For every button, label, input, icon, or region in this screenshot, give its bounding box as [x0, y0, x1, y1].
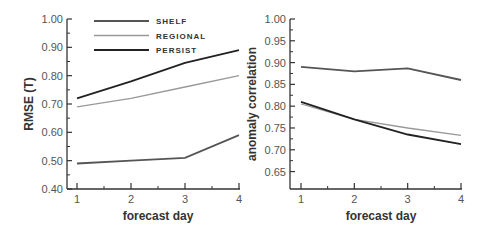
y-tick-label: 0.85 [265, 78, 286, 90]
y-axis-label: anomaly correlation [245, 47, 259, 161]
y-tick-label: 0.90 [265, 57, 286, 69]
y-tick-label: 0.40 [42, 183, 63, 195]
x-tick-label: 3 [405, 193, 411, 205]
y-tick-label: 0.75 [265, 122, 286, 134]
y-tick-label: 0.80 [265, 100, 286, 112]
y-tick-label: 0.80 [42, 70, 63, 82]
y-tick-label: 0.50 [42, 155, 63, 167]
y-tick-label: 0.90 [42, 41, 63, 53]
rmse-chart: 0.400.500.600.700.800.901.001234forecast… [22, 13, 242, 223]
x-tick-label: 3 [182, 193, 188, 205]
y-tick-label: 0.95 [265, 35, 286, 47]
series-line-persist [301, 102, 461, 144]
x-tick-label: 4 [236, 193, 242, 205]
x-axis-label: forecast day [346, 209, 417, 223]
y-tick-label: 0.60 [42, 126, 63, 138]
chart-canvas: 0.400.500.600.700.800.901.001234forecast… [0, 0, 484, 228]
series-line-regional [301, 104, 461, 135]
series-line-shelf [301, 67, 461, 80]
y-tick-label: 0.70 [265, 144, 286, 156]
series-line-persist [77, 50, 239, 98]
y-tick-label: 0.70 [42, 98, 63, 110]
anomaly-correlation-chart: 0.650.700.750.800.850.900.951.001234fore… [245, 13, 464, 223]
x-tick-label: 1 [74, 193, 80, 205]
x-tick-label: 4 [458, 193, 464, 205]
x-tick-label: 2 [351, 193, 357, 205]
x-tick-label: 1 [298, 193, 304, 205]
legend-label-regional: REGIONAL [156, 32, 206, 41]
y-axis-label: RMSE (T) [22, 77, 36, 130]
legend-label-persist: PERSIST [156, 46, 197, 55]
legend: SHELFREGIONALPERSIST [94, 17, 206, 55]
series-line-shelf [77, 135, 239, 163]
x-tick-label: 2 [128, 193, 134, 205]
x-axis-label: forecast day [123, 209, 194, 223]
y-tick-label: 1.00 [42, 13, 63, 25]
y-tick-label: 1.00 [265, 13, 286, 25]
y-tick-label: 0.65 [265, 166, 286, 178]
legend-label-shelf: SHELF [156, 17, 187, 26]
